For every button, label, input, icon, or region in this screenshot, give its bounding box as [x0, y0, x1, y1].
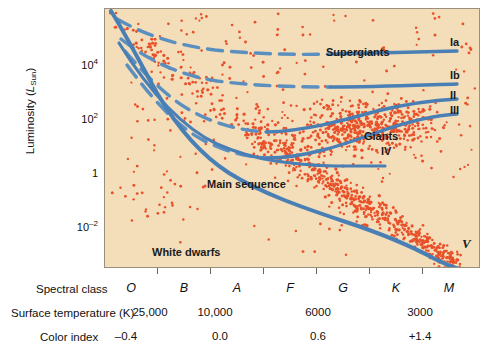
label-supergiants: Supergiants [326, 47, 390, 58]
y-axis-title: Luminosity (LSun) [24, 26, 36, 196]
y-tick-label-1e-2: 10–2 [77, 222, 98, 233]
hr-diagram-figure: Luminosity (LSun) 104 102 1 10–2 [0, 0, 492, 355]
y-axis-title-text: Luminosity ( [24, 92, 36, 154]
y-tick-label-1e2: 102 [81, 114, 98, 125]
spectral-class-M: M [444, 281, 454, 295]
spectral-class-O: O [126, 281, 136, 295]
color-index-06: 0.6 [310, 330, 326, 342]
spectral-class-B: B [180, 281, 188, 295]
label-class-IV: IV [381, 146, 391, 157]
x-tick-mark-4 [316, 268, 317, 274]
label-class-II: II [450, 90, 456, 101]
color-index-00: 0.0 [212, 330, 228, 342]
label-main-sequence: Main sequence [207, 179, 286, 190]
y-tick-label-1: 1 [92, 168, 98, 179]
caption-surface-temperature: Surface temperature (K) [11, 307, 134, 319]
spectral-class-K: K [392, 281, 400, 295]
label-giants: Giants [364, 131, 398, 142]
label-white-dwarfs: White dwarfs [152, 247, 220, 258]
surface-temp-6000: 6000 [305, 306, 331, 318]
caption-color-index: Color index [40, 331, 98, 343]
y-axis-symbol: L [24, 86, 36, 92]
label-class-III: III [450, 105, 459, 116]
y-axis-subscript: Sun [29, 72, 38, 86]
curve-Ia-dashed [117, 19, 335, 54]
color-index-pos14: +1.4 [409, 330, 432, 342]
y-axis-tick-labels: 104 102 1 10–2 [58, 0, 98, 268]
label-class-V: V [462, 237, 471, 250]
label-class-Ib: Ib [450, 70, 460, 81]
surface-temp-25000: 25,000 [132, 306, 167, 318]
curve-II-solid [267, 99, 457, 132]
surface-temp-3000: 3000 [407, 306, 433, 318]
spectral-class-G: G [338, 281, 348, 295]
x-tick-mark-2 [210, 268, 211, 274]
x-tick-mark-6 [422, 268, 423, 274]
plot-area: Supergiants Giants Main sequence White d… [104, 8, 480, 268]
curve-Ib-solid [330, 84, 457, 87]
spectral-class-A: A [233, 281, 241, 295]
surface-temp-10000: 10,000 [197, 306, 232, 318]
color-index-neg04: –0.4 [115, 330, 137, 342]
star-scatter-layer [109, 12, 476, 268]
plot-canvas [105, 9, 480, 268]
caption-spectral-class: Spectral class [36, 283, 108, 295]
x-tick-mark-1 [157, 268, 158, 274]
spectral-class-F: F [286, 281, 294, 295]
label-class-Ia: Ia [450, 37, 459, 48]
x-tick-mark-5 [369, 268, 370, 274]
x-tick-mark-3 [263, 268, 264, 274]
y-tick-label-1e4: 104 [81, 60, 98, 71]
